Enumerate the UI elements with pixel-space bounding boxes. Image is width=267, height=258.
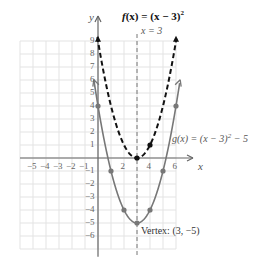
g-point <box>160 168 165 173</box>
g-curve-label: g(x) = (x − 3)2 − 5 <box>172 133 248 144</box>
g-point <box>134 220 139 225</box>
g-point <box>147 207 152 212</box>
f-point <box>147 142 152 147</box>
vertex-label: Vertex: (3, −5) <box>141 226 200 236</box>
f-point <box>134 155 139 160</box>
g-label-tail: − 5 <box>231 133 248 144</box>
x-tick-label: 4 <box>147 162 152 171</box>
x-tick-label: 6 <box>173 162 178 171</box>
y-tick-label: 1 <box>90 140 95 149</box>
x-tick-label: −4 <box>40 162 50 171</box>
x-tick-label: −2 <box>66 162 76 171</box>
y-tick-label: 9 <box>90 36 95 45</box>
y-tick-label: −3 <box>85 192 95 201</box>
y-tick-label: 5 <box>90 88 95 97</box>
f-left-arrow-icon <box>95 36 101 42</box>
x-tick-label: 2 <box>121 162 126 171</box>
y-tick-label: 2 <box>90 127 95 136</box>
g-point <box>121 207 126 212</box>
y-tick-label: −4 <box>85 205 95 214</box>
x-tick-label: −5 <box>27 162 37 171</box>
x-axis-label: x <box>198 161 203 172</box>
g-label-body: g(x) = (x − 3) <box>172 133 228 144</box>
y-tick-label: −1 <box>85 166 95 175</box>
y-tick-label: 4 <box>90 101 95 110</box>
function-graph <box>0 0 267 258</box>
g-point <box>108 168 113 173</box>
y-tick-label: 7 <box>90 62 95 71</box>
y-tick-label: −6 <box>85 231 95 240</box>
y-tick-label: 6 <box>90 75 95 84</box>
chart-title: f(x) = (x − 3)2 <box>122 10 184 22</box>
g-point <box>95 103 100 108</box>
title-exponent: 2 <box>180 9 184 17</box>
axis-of-symmetry-label: x = 3 <box>141 26 162 36</box>
f-right-arrow-icon <box>173 36 179 42</box>
g-point <box>173 103 178 108</box>
y-tick-label: 8 <box>90 49 95 58</box>
title-body: (x) = (x − 3) <box>126 10 181 22</box>
y-axis-label: y <box>89 12 94 23</box>
y-tick-label: −2 <box>85 179 95 188</box>
x-tick-label: −3 <box>53 162 63 171</box>
y-tick-label: 3 <box>90 114 95 123</box>
y-tick-label: −5 <box>85 218 95 227</box>
